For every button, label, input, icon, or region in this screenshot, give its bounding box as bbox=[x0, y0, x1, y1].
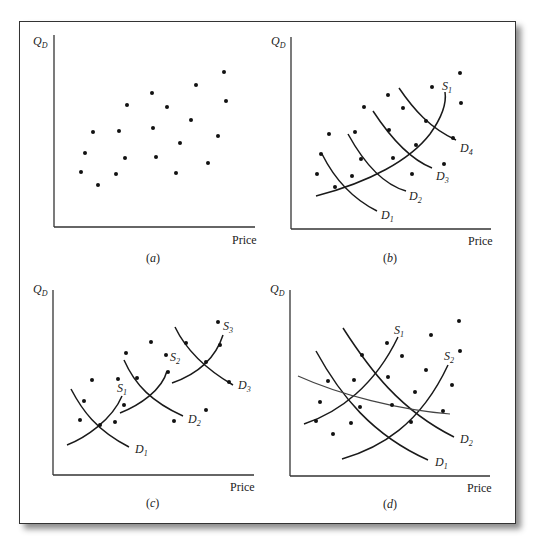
panel-c: QD Price (c) S3 S2 S1 D3 D2 D1 bbox=[33, 282, 255, 510]
curve-label-s1: S1 bbox=[394, 323, 404, 339]
x-axis-label: Price bbox=[230, 480, 255, 494]
panel-caption: (c) bbox=[146, 496, 159, 510]
supply-curve-s2 bbox=[120, 371, 167, 413]
x-axis-label: Price bbox=[467, 481, 492, 495]
data-points bbox=[79, 70, 228, 187]
curve-label-s1: S1 bbox=[117, 381, 127, 397]
y-axis-label: QD bbox=[270, 282, 285, 298]
curve-label-d2: D2 bbox=[459, 432, 473, 448]
panel-d: QD Price (d) S1 S2 D2 D1 bbox=[270, 282, 492, 511]
curve-label-d2: D2 bbox=[408, 189, 422, 205]
data-points bbox=[78, 320, 231, 427]
panel-a: QD Price (a) bbox=[33, 34, 257, 265]
demand-curve-d1 bbox=[316, 351, 428, 460]
panel-caption: (b) bbox=[383, 251, 397, 265]
supply-curve-s1 bbox=[316, 92, 445, 196]
data-points bbox=[314, 319, 462, 436]
curve-label-s2: S2 bbox=[444, 349, 454, 365]
curve-label-s1: S1 bbox=[442, 79, 452, 95]
curve-label-d1: D1 bbox=[380, 208, 394, 224]
y-axis-label: QD bbox=[271, 34, 286, 50]
y-axis-label: QD bbox=[33, 282, 48, 298]
curve-label-d3: D3 bbox=[237, 378, 251, 394]
demand-curve-d3 bbox=[175, 327, 233, 385]
x-axis-label: Price bbox=[468, 234, 493, 248]
panel-caption: (a) bbox=[146, 251, 160, 265]
identified-demand-line bbox=[298, 376, 450, 414]
curve-label-d3: D3 bbox=[435, 169, 449, 185]
demand-curve-d1 bbox=[322, 154, 377, 211]
panel-b: QD Price (b) S1 D4 D3 D2 D1 bbox=[271, 34, 493, 265]
curve-label-s2: S2 bbox=[170, 350, 180, 366]
curve-label-s3: S3 bbox=[223, 319, 233, 335]
curve-label-d2: D2 bbox=[187, 412, 201, 428]
x-axis-label: Price bbox=[232, 233, 257, 247]
curve-label-d1: D1 bbox=[434, 455, 448, 471]
identification-figure: QD Price (a) QD bbox=[0, 0, 534, 536]
curve-label-d4: D4 bbox=[459, 141, 473, 157]
demand-curve-d2 bbox=[343, 328, 454, 437]
y-axis-label: QD bbox=[33, 34, 48, 50]
supply-curve-s1 bbox=[304, 337, 398, 424]
demand-curve-d4 bbox=[399, 88, 456, 140]
panel-caption: (d) bbox=[383, 497, 397, 511]
curve-label-d1: D1 bbox=[134, 442, 148, 458]
